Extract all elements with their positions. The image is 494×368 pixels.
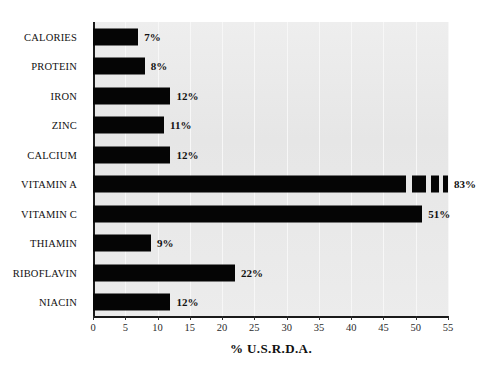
x-axis-tick xyxy=(383,316,384,320)
x-axis-tick xyxy=(351,316,352,320)
x-axis-line xyxy=(93,316,449,318)
category-label: CALCIUM xyxy=(27,149,77,160)
x-axis-tick xyxy=(190,316,191,320)
gridline xyxy=(448,22,449,317)
x-axis-tick-label: 55 xyxy=(443,322,454,333)
x-axis-tick xyxy=(254,316,255,320)
x-axis-tick xyxy=(319,316,320,320)
x-axis-tick-label: 40 xyxy=(346,322,357,333)
bar xyxy=(93,58,145,75)
bar xyxy=(93,294,170,311)
x-axis-title: % U.S.R.D.A. xyxy=(93,341,449,357)
gridline xyxy=(319,22,320,317)
gridline xyxy=(416,22,417,317)
bar xyxy=(93,87,170,104)
category-label: VITAMIN A xyxy=(21,179,77,190)
x-axis-tick xyxy=(222,316,223,320)
category-label: THIAMIN xyxy=(30,238,77,249)
bar xyxy=(93,28,138,45)
bar xyxy=(93,146,170,163)
category-label: CALORIES xyxy=(24,31,77,42)
x-axis-tick xyxy=(287,316,288,320)
bar-value-label: 9% xyxy=(157,237,174,249)
x-axis-tick-label: 15 xyxy=(185,322,196,333)
category-label: NIACIN xyxy=(39,297,77,308)
x-axis-tick-label: 35 xyxy=(314,322,325,333)
bar xyxy=(93,264,235,281)
bar-value-label: 11% xyxy=(170,119,191,131)
gridline xyxy=(287,22,288,317)
x-axis-tick-label: 20 xyxy=(217,322,228,333)
category-label: RIBOFLAVIN xyxy=(13,267,77,278)
bar-value-label: 22% xyxy=(241,267,263,279)
bar-segment xyxy=(412,176,426,193)
bar-value-label: 51% xyxy=(428,208,450,220)
bar-value-label: 12% xyxy=(176,90,198,102)
bar-value-label: 7% xyxy=(144,31,161,43)
category-label: IRON xyxy=(51,90,77,101)
bar-value-label: 8% xyxy=(151,60,168,72)
bar xyxy=(93,235,151,252)
x-axis-tick xyxy=(125,316,126,320)
bar-value-label: 12% xyxy=(176,149,198,161)
bar xyxy=(93,205,422,222)
x-axis-tick-label: 5 xyxy=(123,322,128,333)
bar xyxy=(93,176,406,193)
x-axis-tick-label: 25 xyxy=(249,322,260,333)
category-label: PROTEIN xyxy=(31,61,77,72)
x-axis-tick-label: 50 xyxy=(410,322,421,333)
gridline xyxy=(351,22,352,317)
bar-value-label: 12% xyxy=(176,296,198,308)
x-axis-tick xyxy=(448,316,449,320)
x-axis-tick-label: 10 xyxy=(152,322,163,333)
x-axis-tick-label: 0 xyxy=(90,322,95,333)
category-label: ZINC xyxy=(52,120,77,131)
category-label: VITAMIN C xyxy=(21,208,77,219)
x-axis-tick-label: 30 xyxy=(281,322,292,333)
bar-chart: 0510152025303540455055 7%8%12%11%12%83%5… xyxy=(0,0,494,368)
gridline xyxy=(383,22,384,317)
bar-segment xyxy=(443,176,448,193)
bar xyxy=(93,117,164,134)
x-axis-tick xyxy=(416,316,417,320)
x-axis-tick-label: 45 xyxy=(378,322,389,333)
x-axis-tick xyxy=(93,316,94,320)
x-axis-tick xyxy=(158,316,159,320)
bar-segment xyxy=(431,176,439,193)
bar-value-label: 83% xyxy=(454,178,476,190)
